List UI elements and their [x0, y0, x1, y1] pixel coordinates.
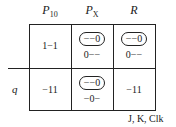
- header-label: P: [42, 3, 49, 17]
- cell-text: −0−: [84, 93, 100, 105]
- header-subscript: X: [93, 10, 99, 19]
- column-header-r: R: [113, 3, 155, 18]
- header-label: P: [85, 3, 92, 17]
- column-header-px: PX: [71, 3, 113, 19]
- header-label: R: [130, 3, 137, 17]
- cell-text: 0−−: [126, 49, 142, 61]
- cell-text: 0−−: [84, 49, 100, 61]
- cell-text: 1−1: [42, 40, 58, 52]
- cell-oval-value: −−0: [79, 32, 105, 46]
- cell-oval-value: −−0: [79, 76, 105, 90]
- row-label-q: q: [12, 83, 18, 95]
- header-subscript: 10: [50, 10, 58, 19]
- cell-r1-c2: −−0 0−−: [71, 24, 113, 68]
- cell-oval-value: −−0: [121, 32, 147, 46]
- cell-r1-c1: 1−1: [29, 24, 71, 68]
- input-label: J, K, Clk: [128, 113, 164, 124]
- column-header-p10: P10: [29, 3, 71, 19]
- cell-text: −11: [42, 84, 57, 96]
- cell-r2-c2: −−0 −0−: [71, 68, 113, 112]
- cell-text: −11: [126, 84, 141, 96]
- cell-r2-c1: −11: [29, 68, 71, 112]
- cell-r1-c3: −−0 0−−: [113, 24, 155, 68]
- cell-r2-c3: −11: [113, 68, 155, 112]
